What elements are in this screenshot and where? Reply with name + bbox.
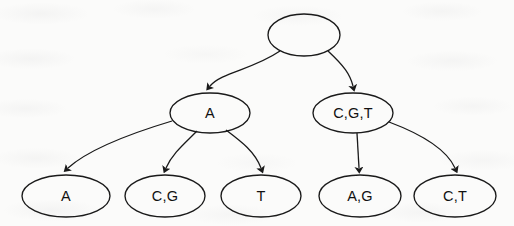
leaf-ag-label: A,G	[347, 188, 373, 204]
leaf-t-label: T	[256, 188, 265, 204]
node-a-label: A	[205, 105, 215, 121]
node-root-shape	[268, 14, 340, 56]
node-cgt[interactable]: C,G,T	[313, 93, 393, 133]
leaf-a[interactable]: A	[22, 175, 110, 217]
edge-a-to-t	[226, 130, 261, 168]
node-group: A C,G,T A C,G T	[22, 14, 496, 217]
leaf-a-label: A	[61, 188, 71, 204]
node-a[interactable]: A	[170, 93, 250, 133]
tree-diagram: A C,G,T A C,G T	[0, 0, 514, 226]
leaf-t[interactable]: T	[221, 175, 301, 217]
node-root[interactable]	[268, 14, 340, 56]
node-cgt-label: C,G,T	[333, 105, 373, 121]
edge-group	[68, 51, 455, 168]
edge-root-to-a	[210, 51, 280, 86]
edge-root-to-cgt	[328, 51, 353, 86]
leaf-ct[interactable]: C,T	[414, 175, 496, 217]
edge-a-to-cg	[166, 131, 197, 168]
leaf-cg[interactable]: C,G	[125, 175, 205, 217]
edge-a-to-a	[68, 121, 172, 168]
edge-cgt-to-ct	[389, 122, 455, 168]
edge-cgt-to-ag	[357, 133, 359, 168]
leaf-ag[interactable]: A,G	[319, 175, 401, 217]
leaf-cg-label: C,G	[152, 188, 178, 204]
diagram-canvas: A C,G,T A C,G T	[0, 0, 514, 226]
leaf-ct-label: C,T	[443, 188, 467, 204]
